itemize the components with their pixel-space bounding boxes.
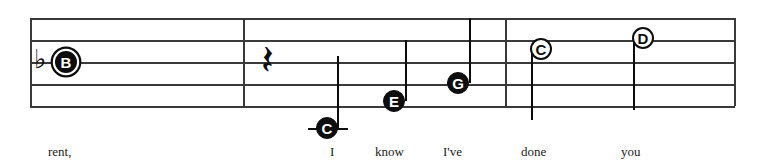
note-g[interactable]: G	[447, 72, 469, 94]
note-d[interactable]: D	[632, 27, 654, 49]
note-e[interactable]: E	[383, 90, 405, 112]
note-c-high[interactable]: C	[530, 38, 552, 60]
lyric-know: know	[375, 145, 404, 158]
barline-start	[30, 18, 32, 106]
note-g-stem	[469, 18, 471, 83]
lyric-done: done	[521, 145, 546, 158]
staff-line-3	[30, 62, 735, 64]
barline-end	[734, 18, 736, 106]
staff-line-2	[30, 40, 735, 42]
lyric-rent: rent,	[48, 145, 71, 158]
staff-line-4	[30, 84, 735, 86]
music-staff-notation: ♭𝄽BCEGCDrent,IknowI'vedoneyou	[0, 0, 763, 168]
flat-accidental-icon: ♭	[34, 46, 46, 72]
staff-line-1	[30, 18, 735, 20]
note-e-stem	[405, 40, 407, 101]
quarter-rest-icon: 𝄽	[261, 39, 274, 81]
staff-line-5	[30, 106, 735, 108]
note-d-stem	[633, 38, 635, 110]
note-c-high-stem	[531, 49, 533, 120]
lyric-ive: I've	[443, 145, 462, 158]
lyric-you: you	[621, 145, 641, 158]
note-c-low-stem	[337, 56, 339, 128]
lyric-i: I	[330, 145, 334, 158]
barline-1	[243, 18, 245, 106]
note-c-low[interactable]: C	[316, 117, 338, 139]
barline-2	[505, 18, 507, 106]
note-b[interactable]: B	[55, 51, 77, 73]
